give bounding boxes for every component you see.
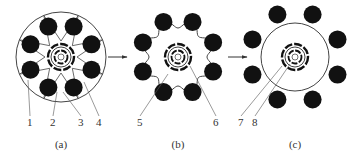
core-assembly [165,44,191,70]
panel-caption: (c) [289,138,302,151]
callout-label-3: 3 [78,116,84,128]
solid-particle [328,30,346,48]
solid-particle [134,33,152,51]
lobed-membrane [142,21,215,94]
solid-particle [244,30,262,48]
solid-particle [65,18,83,36]
leader-line [28,80,30,116]
callout-label-7: 7 [238,116,244,128]
panel-caption: (b) [172,138,185,151]
core-assembly [282,44,308,70]
leader-line [53,92,57,116]
solid-particle [82,61,100,79]
callout-label-2: 2 [50,116,56,128]
solid-particle [82,35,100,53]
callout-label-6: 6 [213,116,219,128]
solid-particle [22,61,40,79]
panel-caption: (a) [55,138,68,151]
outer-tube [261,23,329,91]
solid-particle [65,78,83,96]
solid-particle [244,66,262,84]
solid-particle [304,6,322,24]
solid-particle [268,90,286,108]
panel-a: 1234(a) [16,12,106,151]
solid-particle [304,90,322,108]
leader-line [84,82,99,116]
solid-particle [184,83,202,101]
solid-particle [22,35,40,53]
solid-particle [204,63,222,81]
solid-particle [134,63,152,81]
solid-particle [204,33,222,51]
process-diagram: 1234(a)56(b)78(c) [0,0,354,157]
solid-particle [328,66,346,84]
solid-particle [154,83,172,101]
solid-particle [39,78,57,96]
callout-label-1: 1 [27,116,33,128]
solid-particle [154,13,172,31]
solid-particle [39,18,57,36]
panel-c: 78(c) [238,6,346,151]
callout-label-8: 8 [252,116,258,128]
core-assembly [48,44,74,70]
solid-particle [268,6,286,24]
callout-label-5: 5 [137,116,143,128]
outer-tube [16,12,106,102]
solid-particle [184,13,202,31]
callout-label-4: 4 [96,116,102,128]
panel-b: 56(b) [134,13,222,151]
